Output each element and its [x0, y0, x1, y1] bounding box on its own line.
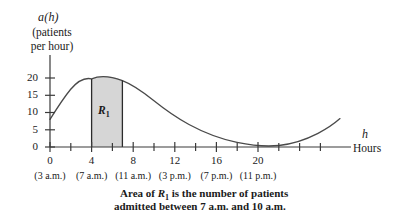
y-axis-function-label: a(h) — [38, 11, 59, 24]
y-tick-label-20: 20 — [18, 72, 38, 84]
x-time-label-11pm: (11 p.m.) — [230, 171, 286, 182]
y-tick-label-0: 0 — [18, 141, 38, 153]
caption-line-2: admitted between 7 a.m. and 10 a.m. — [114, 200, 286, 213]
x-tick-label-0: 0 — [35, 155, 65, 167]
x-tick-label-16: 16 — [201, 155, 231, 167]
y-tick-label-5: 5 — [18, 124, 38, 136]
region-r1-letter: R — [98, 104, 106, 116]
caption-region-letter: R — [158, 187, 165, 199]
y-axis-units-line2: per hour) — [20, 40, 84, 52]
region-r1-index: 1 — [106, 110, 110, 119]
y-axis-units-line1: (patients — [20, 26, 84, 38]
caption-line1-pre: Area of — [120, 187, 158, 199]
y-tick-label-15: 15 — [18, 89, 38, 101]
x-axis-variable-label: h — [362, 128, 368, 141]
admissions-rate-figure: a(h) (patients per hour) 0 5 10 15 20 R1… — [0, 0, 395, 213]
x-axis-name-label: Hours — [353, 142, 381, 154]
x-tick-label-20: 20 — [243, 155, 273, 167]
x-tick-label-8: 8 — [118, 155, 148, 167]
caption-line1-post: is the number of patients — [169, 187, 288, 199]
x-tick-label-12: 12 — [160, 155, 190, 167]
x-tick-label-4: 4 — [77, 155, 107, 167]
y-tick-label-10: 10 — [18, 106, 38, 118]
region-r1-label: R1 — [98, 104, 110, 120]
